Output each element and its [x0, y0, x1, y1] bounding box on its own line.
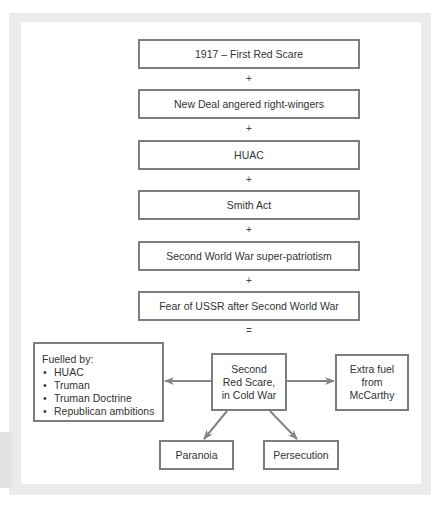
list-item: •Truman Doctrine: [42, 392, 154, 405]
plus-operator: +: [138, 275, 360, 287]
cause-label: Smith Act: [227, 199, 271, 212]
center-line: in Cold War: [222, 389, 276, 402]
cause-box-new-deal: New Deal angered right-wingers: [138, 89, 360, 119]
fuelled-by-box: Fuelled by: •HUAC •Truman •Truman Doctri…: [33, 342, 164, 422]
list-item: •Truman: [42, 379, 154, 392]
bullet-icon: •: [43, 379, 47, 392]
page-edge-tab: [0, 432, 12, 488]
persecution-box: Persecution: [263, 440, 339, 470]
extra-fuel-line: McCarthy: [350, 389, 395, 402]
cause-label: Fear of USSR after Second World War: [159, 300, 339, 313]
cause-box-fear-of-ussr: Fear of USSR after Second World War: [138, 291, 360, 321]
cause-box-smith-act: Smith Act: [138, 190, 360, 220]
equals-operator: =: [138, 325, 360, 337]
cause-label: 1917 – First Red Scare: [195, 48, 303, 61]
cause-label: New Deal angered right-wingers: [174, 98, 324, 111]
fuelled-by-list: •HUAC •Truman •Truman Doctrine •Republic…: [42, 366, 154, 418]
paranoia-box: Paranoia: [159, 440, 234, 470]
center-line: Second: [222, 363, 276, 376]
bullet-icon: •: [43, 392, 47, 405]
list-item: •Republican ambitions: [42, 405, 154, 418]
extra-fuel-line: Extra fuel: [350, 363, 395, 376]
cause-box-huac: HUAC: [138, 140, 360, 170]
cause-label: HUAC: [234, 149, 264, 162]
cause-box-ww2-patriotism: Second World War super-patriotism: [138, 241, 360, 271]
extra-fuel-line: from: [350, 376, 395, 389]
plus-operator: +: [138, 123, 360, 135]
outcome-label: Persecution: [273, 449, 328, 462]
fuelled-by-heading: Fuelled by:: [42, 353, 154, 366]
list-item: •HUAC: [42, 366, 154, 379]
bullet-icon: •: [43, 405, 47, 418]
plus-operator: +: [138, 224, 360, 236]
outcome-label: Paranoia: [175, 449, 217, 462]
extra-fuel-mccarthy-box: Extra fuel from McCarthy: [335, 354, 409, 411]
plus-operator: +: [138, 73, 360, 85]
cause-box-first-red-scare: 1917 – First Red Scare: [138, 39, 360, 69]
center-line: Red Scare,: [222, 376, 276, 389]
bullet-icon: •: [43, 366, 47, 379]
cause-label: Second World War super-patriotism: [166, 250, 332, 263]
second-red-scare-box: Second Red Scare, in Cold War: [211, 353, 287, 411]
plus-operator: +: [138, 174, 360, 186]
